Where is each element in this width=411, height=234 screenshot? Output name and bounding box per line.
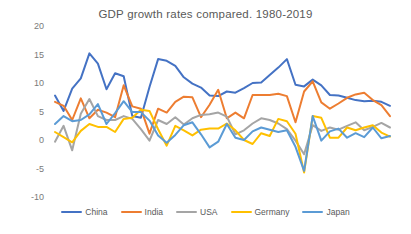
legend-item-china: China <box>61 207 107 217</box>
legend-label-germany: Germany <box>255 207 290 217</box>
legend-item-japan: Japan <box>302 207 349 217</box>
legend-item-usa: USA <box>176 207 217 217</box>
legend-item-india: India <box>121 207 163 217</box>
legend-swatch-india-icon <box>121 211 142 213</box>
gdp-growth-chart: GDP growth rates compared. 1980-2019 201… <box>0 0 411 234</box>
legend-label-japan: Japan <box>326 207 349 217</box>
legend-swatch-usa-icon <box>176 211 197 213</box>
legend-item-germany: Germany <box>231 207 290 217</box>
legend-label-usa: USA <box>200 207 217 217</box>
legend-swatch-japan-icon <box>302 211 323 213</box>
legend: ChinaIndiaUSAGermanyJapan <box>0 205 411 219</box>
legend-label-china: China <box>85 207 107 217</box>
legend-swatch-germany-icon <box>231 211 252 213</box>
legend-label-india: India <box>145 207 163 217</box>
plot-area <box>0 0 411 234</box>
legend-swatch-china-icon <box>61 211 82 213</box>
series-line-china <box>55 53 390 117</box>
